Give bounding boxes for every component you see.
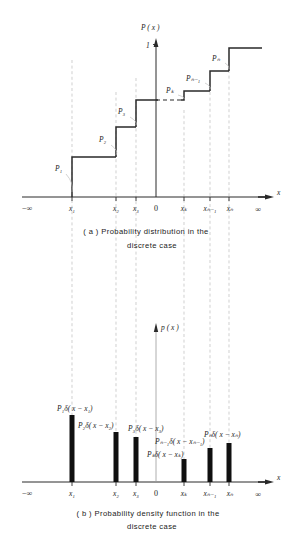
origin-label-a: 0 [154, 204, 158, 213]
panel-a-step-curve [72, 48, 262, 197]
panel-a-xticks [72, 197, 229, 201]
panel-b-xaxis-label: x [276, 473, 281, 482]
guide-lines [72, 60, 229, 482]
impulse-label-x2: P₂δ( x − x₂) [77, 421, 114, 430]
xtick-label-b-x2: x₂ [112, 489, 119, 498]
figure-probability-discrete: P ( x ) 1 x P₁ P₂ P₃ [0, 0, 292, 534]
pos-infinity-b: ∞ [255, 490, 261, 499]
impulse-bar-xn-1 [208, 448, 213, 482]
xtick-label-x1: x₁ [68, 204, 75, 213]
step-label-Pn-1: Pₙ₋₁ [185, 74, 201, 83]
panel-a-xaxis-label: x [276, 188, 281, 197]
xtick-label-b-x3: x₃ [132, 489, 139, 498]
impulse-label-x3: P₃δ( x − x₃) [127, 424, 164, 433]
xtick-label-b-xn-1: xₙ₋₁ [203, 489, 217, 498]
panel-a-caption-line2: discrete case [127, 241, 177, 250]
step-label-Pn: Pₙ [211, 54, 221, 63]
xtick-label-x3: x₃ [132, 204, 139, 213]
panel-a-yaxis-label: P ( x ) [140, 23, 160, 32]
panel-a-xtick-labels: x₁ x₂ x₃ 0 xₖ xₙ₋₁ xₙ −∞ ∞ [22, 204, 261, 214]
impulse-bar-x2 [114, 432, 119, 482]
pos-infinity-a: ∞ [255, 205, 261, 214]
panel-b-caption-line1: ( b ) Probability density function in th… [76, 509, 219, 518]
impulse-bar-x3 [134, 437, 139, 482]
panel-b-xtick-labels: x₁ x₂ x₃ 0 xₖ xₙ₋₁ xₙ −∞ ∞ [22, 489, 261, 499]
panel-b: p ( x ) x P₁δ( x − x₁) P₂δ( x − x₂) P₃δ(… [22, 323, 281, 531]
xtick-label-b-xk: xₖ [180, 489, 188, 498]
xtick-label-xn: xₙ [226, 204, 234, 213]
impulse-label-x1: P₁δ( x − x₁) [56, 404, 93, 413]
step-label-P2: P₂ [98, 135, 107, 144]
impulse-bar-x1 [70, 415, 75, 482]
panel-a-step-labels: P₁ P₂ P₃ Pₖ Pₙ₋₁ Pₙ [54, 54, 229, 192]
xtick-label-b-xn: xₙ [226, 489, 234, 498]
xtick-label-b-x1: x₁ [68, 489, 75, 498]
panel-b-caption-line2: discrete case [127, 522, 177, 531]
panel-a-ytick-1: 1 [146, 41, 150, 50]
panel-a-y-axis-arrow [154, 38, 159, 47]
panel-b-impulse-labels: P₁δ( x − x₁) P₂δ( x − x₂) P₃δ( x − x₃) P… [56, 404, 241, 459]
xtick-label-x2: x₂ [112, 204, 119, 213]
neg-infinity-a: −∞ [22, 204, 33, 213]
neg-infinity-b: −∞ [22, 489, 33, 498]
panel-b-yaxis-label: p ( x ) [160, 323, 179, 332]
step-label-Pk: Pₖ [165, 86, 175, 95]
step-label-P1: P₁ [54, 164, 63, 173]
step-label-P3: P₃ [117, 107, 126, 116]
xtick-label-xk: xₖ [180, 204, 188, 213]
panel-a: P ( x ) 1 x P₁ P₂ P₃ [22, 23, 281, 250]
impulse-label-xk: Pₖδ( x − xₖ) [146, 450, 184, 459]
panel-a-caption-line1: ( a ) Probability distribution in the [83, 227, 208, 236]
panel-b-xticks [72, 482, 229, 486]
impulse-label-xn: Pₙδ( x − xₙ) [203, 430, 241, 439]
impulse-label-xn-1: Pₙ₋₁δ( x − xₙ₋₁) [154, 437, 205, 446]
panel-b-y-axis-arrow [154, 323, 158, 332]
impulse-bar-xn [227, 443, 232, 482]
origin-label-b: 0 [154, 489, 158, 498]
xtick-label-xn-1: xₙ₋₁ [203, 204, 217, 213]
impulse-bar-xk [182, 459, 187, 482]
